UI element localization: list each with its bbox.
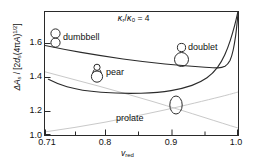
y-axis-tick-marks bbox=[45, 44, 51, 135]
prolate-shape-icon bbox=[170, 96, 182, 114]
shape-label-pear: pear bbox=[106, 67, 124, 77]
x-tick-label: 1.0 bbox=[230, 137, 243, 147]
x-axis-tick-marks bbox=[46, 130, 238, 136]
chart-figure: ΔAs / [2ds(4πA)1/2] 1.6 1.4 1.2 1.0 bbox=[0, 0, 255, 164]
plot-area: dumbbell pear doublet prolate bbox=[44, 11, 239, 136]
x-tick-label: 0.9 bbox=[165, 137, 178, 147]
y-tick-label: 1.4 bbox=[18, 72, 42, 81]
shape-label-prolate: prolate bbox=[116, 113, 144, 123]
shape-label-dumbbell: dumbbell bbox=[63, 32, 100, 42]
x-axis-label: vred bbox=[0, 148, 255, 158]
shape-label-doublet: doublet bbox=[188, 42, 218, 52]
y-tick-label: 1.2 bbox=[18, 106, 42, 115]
dumbbell-shape-icon bbox=[51, 29, 60, 47]
x-tick-label: 0.8 bbox=[99, 137, 112, 147]
y-tick-label: 1.6 bbox=[18, 38, 42, 47]
pear-shape-icon bbox=[91, 64, 102, 82]
kappa-ratio-annotation: κr/κ0 = 4 bbox=[0, 13, 255, 23]
x-tick-label: 0.71 bbox=[38, 137, 56, 147]
series-pear bbox=[48, 12, 238, 93]
doublet-shape-icon bbox=[175, 43, 189, 66]
